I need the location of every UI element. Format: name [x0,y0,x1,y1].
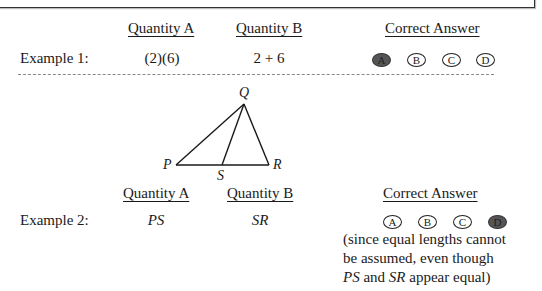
segment-ps: PS [343,269,360,285]
quantity-b-header: Quantity B [227,185,293,202]
vertex-label-p: P [163,157,172,173]
explanation-line-3: PS and SR appear equal) [343,268,542,287]
answer-explanation: (since equal lengths cannot be assumed, … [343,230,542,287]
answer-choice-c: C [453,215,472,229]
vertex-label-q: Q [239,85,249,101]
example-label: Example 2: [20,212,89,229]
explanation-line-1: (since equal lengths cannot [343,230,542,249]
quantity-b-value: SR [227,212,293,229]
vertex-label-r: R [273,157,282,173]
correct-answer-header: Correct Answer [383,185,478,202]
text: and [360,269,389,285]
quantity-a-header: Quantity A [123,185,189,202]
quantity-a-value: PS [123,212,189,229]
choice-letter: A [389,216,397,228]
answer-choice-b: B [418,215,437,229]
vertex-label-s: S [217,168,224,184]
choice-letter: C [459,216,466,228]
answer-choice-d: D [488,215,507,229]
segment-sr: SR [389,269,406,285]
choice-letter: D [494,216,502,228]
choice-letter: B [424,216,431,228]
answer-choice-a: A [383,215,402,229]
explanation-line-2: be assumed, even though [343,249,542,268]
text: appear equal) [406,269,491,285]
